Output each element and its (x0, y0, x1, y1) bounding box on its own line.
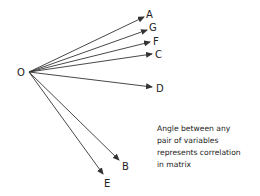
note-line-3: represents correlation (157, 147, 257, 159)
vector-label-a: A (146, 9, 153, 20)
vector-arrow-d (29, 72, 152, 87)
vector-label-e: E (104, 178, 110, 189)
note-line-2: pair of variables (157, 135, 257, 147)
explanation-note: Angle between any pair of variables repr… (157, 123, 257, 171)
vector-arrow-b (29, 72, 119, 160)
vector-label-g: G (149, 22, 157, 33)
vector-arrow-e (29, 72, 103, 174)
vector-label-f: F (153, 36, 159, 47)
vector-arrow-g (29, 30, 147, 72)
note-line-1: Angle between any (157, 123, 257, 135)
vectors-group (29, 17, 152, 174)
note-line-4: in matrix (157, 159, 257, 171)
correlation-vector-diagram: AGFCDBEO Angle between any pair of varia… (0, 0, 260, 196)
labels-group: AGFCDBEO (17, 9, 164, 189)
vector-label-b: B (122, 161, 129, 172)
vector-label-d: D (156, 83, 164, 94)
origin-label: O (17, 67, 25, 78)
vector-label-c: C (155, 49, 162, 60)
